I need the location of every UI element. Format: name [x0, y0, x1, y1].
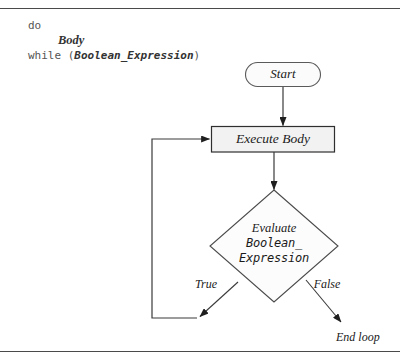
- edge-label-false: False: [306, 277, 348, 292]
- execute-body-node-label: Execute Body: [211, 131, 335, 147]
- decision-label-line1: Evaluate: [214, 221, 334, 236]
- flowchart-figure: doBodywhile (Boolean_Expression) Start E…: [0, 0, 400, 363]
- start-node-label: Start: [245, 66, 321, 82]
- decision-label-line3: Expression: [214, 251, 334, 266]
- decision-label-line2: Boolean_: [214, 236, 334, 251]
- edge-label-true: True: [186, 277, 226, 292]
- flowchart-canvas: [0, 0, 400, 363]
- end-loop-label: End loop: [336, 330, 398, 345]
- decision-node-label: Evaluate Boolean_ Expression: [214, 221, 334, 266]
